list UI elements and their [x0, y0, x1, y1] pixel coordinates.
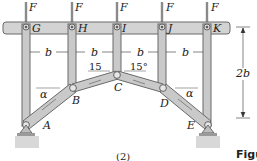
svg-text:F: F: [165, 1, 174, 14]
svg-text:F: F: [210, 1, 219, 14]
svg-text:J: J: [166, 22, 173, 35]
support-A: [15, 125, 39, 148]
svg-text:F: F: [28, 1, 37, 14]
svg-text:E: E: [186, 119, 195, 132]
svg-text:B: B: [71, 94, 80, 107]
inclined-links: [23, 71, 211, 129]
frame-diagram: F F F F F G H I J K b b b b 15 15° α α A…: [0, 0, 257, 161]
svg-text:b: b: [182, 46, 189, 59]
svg-text:F: F: [119, 1, 128, 14]
angle-right-outer: α: [186, 87, 194, 100]
svg-text:C: C: [114, 81, 123, 94]
figure-caption: Figu: [236, 148, 257, 161]
svg-text:b: b: [137, 46, 144, 59]
load-labels: F F F F F: [28, 1, 219, 14]
svg-text:H: H: [77, 22, 88, 35]
angle-left-inner: 15: [89, 61, 102, 72]
support-E: [196, 125, 220, 148]
height-label: 2b: [235, 67, 250, 80]
svg-text:F: F: [74, 1, 83, 14]
angle-left-outer: α: [40, 88, 48, 101]
svg-text:D: D: [159, 97, 169, 110]
svg-text:b: b: [45, 46, 52, 59]
sub-caption: (2): [116, 151, 130, 161]
svg-text:I: I: [121, 22, 127, 35]
svg-text:K: K: [212, 22, 222, 35]
svg-text:b: b: [91, 46, 98, 59]
svg-text:A: A: [42, 119, 51, 132]
load-rods: [26, 2, 207, 24]
svg-text:G: G: [32, 22, 41, 35]
angle-right-inner: 15°: [130, 61, 148, 72]
